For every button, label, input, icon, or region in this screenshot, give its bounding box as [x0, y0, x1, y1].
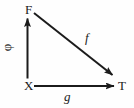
vertex-label-f: F [25, 3, 32, 16]
vertex-label-t: T [118, 79, 126, 92]
edge-label-phi: φ [0, 44, 13, 52]
arrow-f-f-to-t [34, 13, 113, 75]
vertex-label-x: X [24, 79, 33, 92]
edge-label-f: f [85, 31, 89, 44]
diagram-canvas: F X T φ f g [0, 0, 134, 108]
edge-label-g: g [64, 90, 71, 103]
